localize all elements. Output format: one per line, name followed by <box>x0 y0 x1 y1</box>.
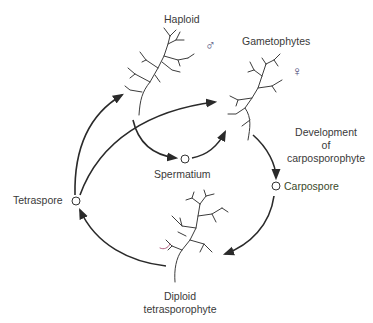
diploid-line-2: tetrasporophyte <box>140 303 220 316</box>
tetraspore-label: Tetraspore <box>13 194 63 207</box>
arrow-spermatium-to-female <box>192 132 225 158</box>
development-label: Development of carposporophyte <box>283 126 369 165</box>
carpospore-circle <box>272 182 280 190</box>
tetrasporophyte-plant <box>160 190 228 282</box>
carpospore-label: Carpospore <box>284 180 339 193</box>
male-gametophyte-plant <box>125 28 194 115</box>
arrow-female-to-carpospore <box>253 135 276 178</box>
spermatium-circle <box>181 155 189 163</box>
development-line-3: carposporophyte <box>283 152 369 165</box>
arrow-tetraspore-to-female <box>80 102 215 195</box>
tetraspore-circle <box>72 197 80 205</box>
spermatium-label: Spermatium <box>154 168 211 181</box>
diploid-line-1: Diploid <box>140 290 220 303</box>
arrow-tetraspore-to-male <box>75 95 122 195</box>
development-line-1: Development <box>283 126 369 139</box>
arrow-tetrasporophyte-to-tetraspore <box>80 210 166 266</box>
female-symbol-icon: ♀ <box>292 64 303 78</box>
male-symbol-icon: ♂ <box>205 38 216 52</box>
development-line-2: of <box>283 139 369 152</box>
arrow-carpospore-to-tetrasporophyte <box>225 196 274 254</box>
gametophytes-label: Gametophytes <box>242 35 310 48</box>
diploid-tetrasporophyte-label: Diploid tetrasporophyte <box>140 290 220 316</box>
female-gametophyte-plant <box>228 54 282 140</box>
haploid-label: Haploid <box>164 13 200 26</box>
